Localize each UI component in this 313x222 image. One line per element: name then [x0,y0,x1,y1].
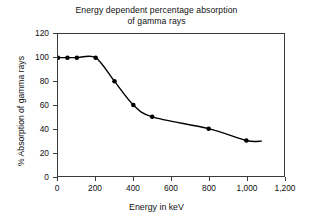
y-tick-mark [53,105,57,106]
x-tick-mark [133,177,134,181]
y-tick-label: 60 [19,100,49,110]
chart-title-line-2: of gamma rays [0,16,313,27]
y-tick-label: 80 [19,76,49,86]
y-tick-label: 120 [19,28,49,38]
y-tick-label: 100 [19,52,49,62]
data-point-marker [75,55,80,60]
chart-title: Energy dependent percentage absorption o… [0,5,313,27]
x-tick-label: 200 [75,183,115,193]
y-tick-mark [53,153,57,154]
x-tick-label: 0 [37,183,77,193]
x-tick-mark [95,177,96,181]
y-tick-label: 40 [19,124,49,134]
x-tick-label: 800 [189,183,229,193]
chart-figure: Energy dependent percentage absorption o… [0,0,313,222]
data-point-marker [206,126,211,131]
y-tick-mark [53,57,57,58]
y-tick-mark [53,129,57,130]
x-tick-label: 600 [151,183,191,193]
data-point-marker [112,79,117,84]
data-point-marker [93,55,98,60]
plot-area [57,33,285,177]
plot-canvas [58,34,284,176]
x-axis-label: Energy in keV [0,202,313,212]
x-tick-mark [247,177,248,181]
data-series-layer [58,55,261,142]
data-point-marker [244,138,249,143]
x-tick-mark [57,177,58,181]
data-point-marker [131,103,136,108]
x-tick-label: 1,000 [227,183,267,193]
data-point-marker [65,55,70,60]
y-tick-mark [53,81,57,82]
x-tick-mark [171,177,172,181]
x-tick-mark [209,177,210,181]
x-tick-label: 400 [113,183,153,193]
series-line [58,56,261,141]
data-point-marker [150,115,155,120]
y-tick-label: 0 [19,172,49,182]
data-point-marker [58,55,60,60]
x-tick-mark [285,177,286,181]
x-tick-label: 1,200 [265,183,305,193]
y-tick-label: 20 [19,148,49,158]
y-tick-mark [53,33,57,34]
chart-title-line-1: Energy dependent percentage absorption [0,5,313,16]
